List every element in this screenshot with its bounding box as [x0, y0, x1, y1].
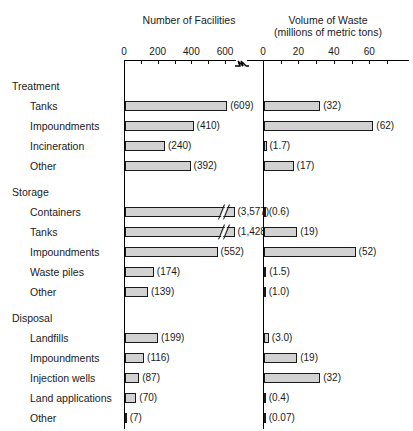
other-waste-value: (0.07)	[269, 412, 295, 424]
landfills-waste-value: (3.0)	[272, 332, 293, 344]
other-waste-value: (1.0)	[269, 286, 290, 298]
axis-facilities-tick	[158, 60, 159, 64]
axis-break-symbol	[234, 55, 250, 73]
axis-waste-tick-label: 20	[293, 46, 304, 57]
injection-wells-facilities-bar	[125, 373, 140, 383]
table-row[interactable]: Impoundments(116)(19)	[0, 348, 399, 368]
axis-waste-tick	[352, 60, 353, 64]
containers-facilities-bar	[125, 207, 235, 217]
tanks-waste-value: (19)	[300, 226, 318, 238]
axis-waste-tick	[369, 60, 370, 64]
tanks-waste-bar	[264, 101, 321, 111]
table-row[interactable]: Containers(3,577)(0.6)	[0, 202, 399, 222]
axis-facilities-tick-label: 200	[149, 46, 166, 57]
right-panel-title-line2: (millions of metric tons)	[257, 26, 399, 38]
incineration-facilities-value: (240)	[168, 140, 191, 152]
impoundments-waste-bar	[264, 247, 356, 257]
row-label: Impoundments	[30, 352, 99, 364]
land-applications-waste-value: (0.4)	[269, 392, 290, 404]
other-facilities-value: (392)	[194, 160, 217, 172]
axis-waste-tick	[387, 60, 388, 64]
table-row[interactable]: Impoundments(410)(62)	[0, 116, 399, 136]
row-label: Waste piles	[30, 266, 84, 278]
tanks-facilities-value: (609)	[230, 100, 253, 112]
row-label: Impoundments	[30, 120, 99, 132]
impoundments-facilities-value: (552)	[221, 246, 244, 258]
row-label: Land applications	[30, 392, 112, 404]
row-label: Injection wells	[30, 372, 95, 384]
containers-waste-value: (0.6)	[269, 206, 290, 218]
impoundments-facilities-bar	[125, 121, 194, 131]
axis-waste-tick	[281, 60, 282, 64]
group-row: Storage	[0, 182, 399, 202]
group-label: Treatment	[12, 80, 59, 92]
injection-wells-facilities-value: (87)	[142, 372, 160, 384]
axis-waste-tick-labels: 0204060	[263, 46, 413, 59]
axis-waste-tick-label: 0	[260, 46, 266, 57]
tanks-waste-value: (32)	[323, 100, 341, 112]
landfills-facilities-bar	[125, 333, 159, 343]
table-row[interactable]: Land applications(70)(0.4)	[0, 388, 399, 408]
waste-piles-facilities-value: (174)	[157, 266, 180, 278]
table-row[interactable]: Tanks(609)(32)	[0, 96, 399, 116]
row-label: Other	[30, 286, 56, 298]
axis-waste-tick-label: 60	[364, 46, 375, 57]
impoundments-waste-bar	[264, 121, 374, 131]
left-panel-title-line1: Number of Facilities	[124, 14, 254, 26]
table-row[interactable]: Other(392)(17)	[0, 156, 399, 176]
incineration-waste-value: (1.7)	[270, 140, 291, 152]
axis-facilities-tick-label: 400	[183, 46, 200, 57]
other-facilities-value: (139)	[151, 286, 174, 298]
waste-piles-facilities-bar	[125, 267, 154, 277]
row-label: Incineration	[30, 140, 84, 152]
axis-facilities-tick	[208, 60, 209, 64]
left-panel-title: Number of Facilities	[124, 14, 254, 26]
table-row[interactable]: Waste piles(174)(1.5)	[0, 262, 399, 282]
other-facilities-value: (7)	[130, 412, 142, 424]
axis-facilities-tick-label: 600	[217, 46, 234, 57]
other-waste-bar	[264, 161, 294, 171]
row-label: Other	[30, 412, 56, 424]
axis-waste-tick	[316, 60, 317, 64]
row-label: Tanks	[30, 226, 57, 238]
row-label: Impoundments	[30, 246, 99, 258]
group-label: Storage	[12, 186, 49, 198]
axis-facilities-tick	[175, 60, 176, 64]
table-row[interactable]: Impoundments(552)(52)	[0, 242, 399, 262]
right-panel-title: Volume of Waste (millions of metric tons…	[257, 14, 399, 38]
table-row[interactable]: Other(7)(0.07)	[0, 408, 399, 428]
axis-facilities-tick-label: 0	[121, 46, 127, 57]
group-label: Disposal	[12, 312, 52, 324]
injection-wells-waste-value: (32)	[323, 372, 341, 384]
table-row[interactable]: Other(139)(1.0)	[0, 282, 399, 302]
table-row[interactable]: Tanks(1,428)(19)	[0, 222, 399, 242]
impoundments-facilities-value: (116)	[147, 352, 170, 364]
impoundments-waste-value: (19)	[300, 352, 318, 364]
tanks-facilities-bar	[125, 101, 228, 111]
other-waste-value: (17)	[297, 160, 315, 172]
impoundments-facilities-bar	[125, 353, 145, 363]
land-applications-facilities-value: (70)	[139, 392, 157, 404]
landfills-facilities-value: (199)	[161, 332, 184, 344]
table-row[interactable]: Incineration(240)(1.7)	[0, 136, 399, 156]
axis-waste-tick	[298, 60, 299, 64]
other-facilities-bar	[125, 161, 191, 171]
table-row[interactable]: Injection wells(87)(32)	[0, 368, 399, 388]
right-panel-title-line1: Volume of Waste	[257, 14, 399, 26]
axis-facilities: 0200400600	[124, 46, 268, 72]
axis-facilities-tick	[141, 60, 142, 64]
impoundments-waste-bar	[264, 353, 298, 363]
other-facilities-bar	[125, 287, 148, 297]
table-row[interactable]: Landfills(199)(3.0)	[0, 328, 399, 348]
impoundments-facilities-bar	[125, 247, 218, 257]
incineration-facilities-bar	[125, 141, 166, 151]
tanks-waste-bar	[264, 227, 298, 237]
axis-facilities-tick	[225, 60, 226, 64]
impoundments-facilities-value: (410)	[197, 120, 220, 132]
axis-facilities-tick	[191, 60, 192, 64]
row-label: Landfills	[30, 332, 69, 344]
injection-wells-waste-bar	[264, 373, 321, 383]
row-label: Tanks	[30, 100, 57, 112]
baseline-facilities	[124, 60, 125, 429]
